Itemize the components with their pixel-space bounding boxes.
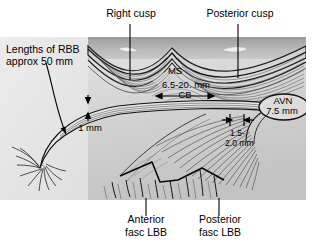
anatomical-illustration: [0, 0, 312, 245]
label-posterior-cusp: Posterior cusp: [198, 8, 282, 20]
label-gap-measure-line2: 2.0 mm: [225, 139, 254, 149]
figure-canvas: Right cusp Posterior cusp Lengths of RBB…: [0, 0, 312, 245]
label-rbb-length-line2: approx 50 mm: [6, 56, 73, 68]
label-anterior-fasc-line2: fasc LBB: [112, 227, 180, 239]
label-rbb-length-line1: Lengths of RBB: [6, 44, 80, 56]
label-avn-measure: 7.5 mm: [258, 106, 306, 117]
label-anterior-fasc-line1: Anterior: [112, 214, 180, 226]
label-cb: CB: [172, 90, 198, 101]
label-ms: MS: [162, 66, 188, 77]
label-right-cusp: Right cusp: [98, 8, 164, 20]
label-one-mm: 1 mm: [70, 123, 110, 134]
label-posterior-fasc-line1: Posterior: [186, 214, 254, 226]
label-posterior-fasc-line2: fasc LBB: [186, 227, 254, 239]
